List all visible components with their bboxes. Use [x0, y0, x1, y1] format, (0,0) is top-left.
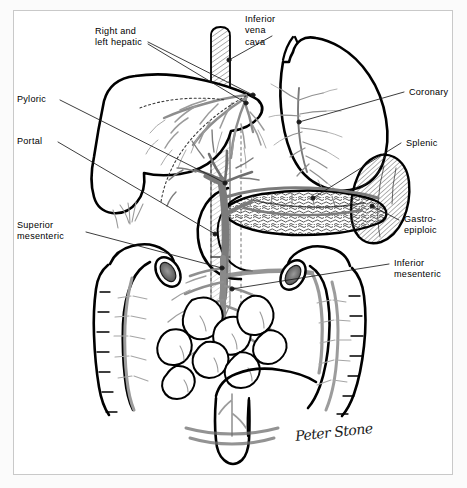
figure-container: Right and left hepatic Inferior vena cav…	[0, 0, 467, 488]
label-inferior-vena-cava: Inferior vena cava	[245, 14, 275, 48]
label-inferior-mesenteric: Inferior mesenteric	[394, 258, 441, 281]
descending-colon	[275, 246, 365, 416]
anatomical-illustration	[0, 0, 467, 488]
label-superior-mesenteric: Superior mesenteric	[17, 220, 64, 243]
label-gastro-epiploic: Gastro- epiploic	[404, 214, 437, 237]
organ-outlines	[58, 27, 409, 464]
label-coronary: Coronary	[409, 87, 448, 98]
label-portal: Portal	[17, 136, 42, 147]
label-pyloric: Pyloric	[17, 94, 46, 105]
label-splenic: Splenic	[406, 138, 438, 149]
label-right-and-left-hepatic: Right and left hepatic	[95, 26, 142, 49]
